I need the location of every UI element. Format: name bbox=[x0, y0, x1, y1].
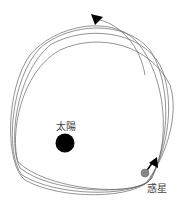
orbit-path-1 bbox=[11, 26, 164, 195]
planet-label: 惑星 bbox=[147, 180, 166, 195]
sun bbox=[56, 134, 75, 153]
orbit-diagram bbox=[0, 0, 186, 206]
orbit-path-2 bbox=[12, 28, 165, 192]
arrow-head-top bbox=[91, 14, 103, 25]
planet bbox=[141, 169, 149, 177]
sun-label: 太陽 bbox=[56, 118, 75, 133]
